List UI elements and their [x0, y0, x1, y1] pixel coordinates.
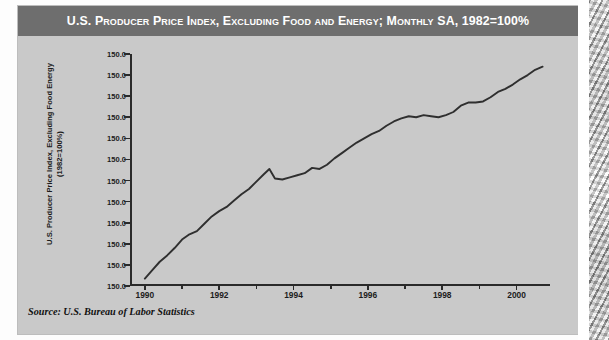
- y-tick-mark: [124, 201, 130, 203]
- page-edge-photo-strip: [589, 0, 609, 340]
- page-gutter: [578, 0, 589, 340]
- x-minor-tick-mark: [404, 284, 406, 289]
- figure-panel: U.S. Producer Price Index, Excluding Foo…: [18, 6, 578, 334]
- y-tick-mark: [124, 285, 130, 287]
- y-tick-mark: [124, 180, 130, 182]
- source-caption: Source: U.S. Bureau of Labor Statistics: [28, 306, 195, 317]
- plot-area: U.S. Producer Price Index, Excluding Foo…: [18, 36, 578, 334]
- x-tick-label: 2000: [507, 290, 526, 300]
- y-tick-mark: [124, 74, 130, 76]
- figure-title-bar: U.S. Producer Price Index, Excluding Foo…: [18, 6, 578, 36]
- y-tick-mark: [124, 264, 130, 266]
- x-tick-label: 1998: [433, 290, 452, 300]
- y-axis-title: U.S. Producer Price Index, Excluding Foo…: [45, 54, 65, 254]
- y-tick-mark: [124, 138, 130, 140]
- y-axis-title-line-2: (1982=100%): [55, 54, 65, 254]
- y-tick-mark: [124, 222, 130, 224]
- y-tick-label-group: 150.0150.0150.0150.0150.0150.0150.0150.0…: [92, 36, 126, 286]
- x-tick-label: 1992: [210, 290, 229, 300]
- y-tick-mark: [124, 116, 130, 118]
- x-minor-tick-mark: [479, 284, 481, 289]
- axes: 199019921994199619982000: [130, 54, 550, 286]
- x-tick-label: 1990: [136, 290, 155, 300]
- y-tick-mark: [124, 159, 130, 161]
- x-tick-label: 1994: [284, 290, 303, 300]
- x-minor-tick-mark: [256, 284, 258, 289]
- data-line-chart: [130, 54, 550, 286]
- page-title: U.S. Producer Price Index, Excluding Foo…: [67, 14, 529, 28]
- y-tick-mark: [124, 95, 130, 97]
- x-minor-tick-mark: [181, 284, 183, 289]
- y-tick-mark: [124, 243, 130, 245]
- y-axis-title-line-1: U.S. Producer Price Index, Excluding Foo…: [45, 54, 55, 254]
- y-tick-mark: [124, 53, 130, 55]
- series-line-ppi: [145, 67, 543, 279]
- page-canvas: U.S. Producer Price Index, Excluding Foo…: [0, 0, 609, 340]
- x-minor-tick-mark: [330, 284, 332, 289]
- x-tick-label: 1996: [359, 290, 378, 300]
